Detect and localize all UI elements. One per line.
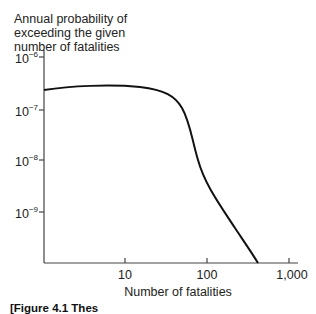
- x-tick-label: 10: [118, 268, 132, 282]
- x-tick-marks: [125, 258, 289, 263]
- y-axis-label-line-2: exceeding the given: [14, 26, 174, 40]
- y-axis-label-line-3: number of fatalities: [14, 40, 174, 54]
- y-axis-label-line-1: Annual probability of: [14, 12, 174, 26]
- y-tick-label: 10−9: [15, 205, 38, 221]
- y-axis-label: Annual probability of exceeding the give…: [14, 12, 174, 54]
- y-tick-label: 10−7: [15, 103, 38, 119]
- x-tick-label: 1,000: [276, 268, 307, 282]
- y-tick-label: 10−8: [15, 153, 38, 169]
- y-tick-marks: [39, 57, 44, 212]
- y-tick-label: 10−6: [15, 50, 38, 66]
- x-tick-label: 100: [197, 268, 218, 282]
- figure-caption: [Figure 4.1 Thes: [10, 302, 98, 314]
- x-axis-label: Number of fatalities: [0, 285, 316, 299]
- exceedance-curve: [44, 86, 258, 263]
